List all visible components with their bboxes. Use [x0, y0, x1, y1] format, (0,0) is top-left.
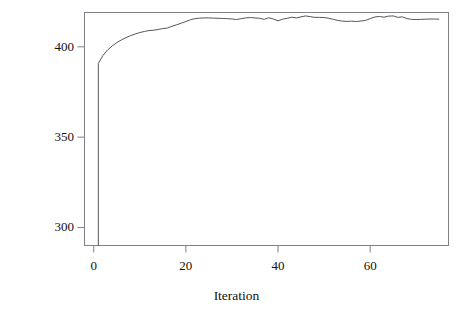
x-tick-label: 40 — [272, 258, 285, 274]
plot-border — [85, 13, 449, 246]
y-tick-label: 350 — [30, 129, 74, 145]
x-axis-title: Iteration — [0, 288, 473, 304]
y-axis-ticks — [78, 47, 85, 228]
plot-frame — [85, 13, 449, 246]
x-axis-ticks — [94, 246, 370, 253]
x-tick-label: 0 — [90, 258, 97, 274]
x-tick-label: 60 — [364, 258, 377, 274]
chart-figure: 3003504000204060 Negative AIC Iteration — [0, 0, 473, 316]
y-tick-label: 300 — [30, 219, 74, 235]
y-tick-label: 400 — [30, 39, 74, 55]
data-series-group — [98, 16, 439, 246]
x-tick-label: 20 — [179, 258, 192, 274]
series-line-negative-aic — [98, 16, 439, 246]
